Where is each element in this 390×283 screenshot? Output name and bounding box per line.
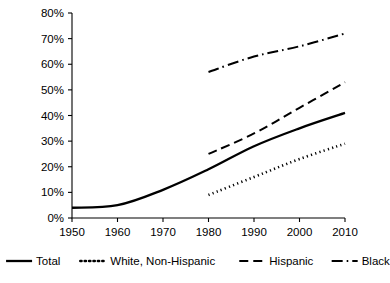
y-tick-label: 80% [41,7,64,19]
x-axis-tick-labels: 1950196019701980199020002010 [59,226,358,238]
legend-label: White, Non-Hispanic [110,255,215,267]
y-tick-label: 20% [41,161,64,173]
data-series-group [72,34,345,208]
axis-lines [68,13,345,222]
series-line-black [209,34,346,72]
chart-legend: TotalWhite, Non-HispanicHispanicBlack [6,255,390,267]
x-tick-label: 1980 [196,226,222,238]
legend-label: Hispanic [269,255,313,267]
y-tick-label: 30% [41,135,64,147]
axis-frame [72,13,345,218]
series-line-hispanic [209,82,346,154]
y-tick-label: 10% [41,186,64,198]
y-tick-label: 0% [47,212,64,224]
line-chart: 0%10%20%30%40%50%60%70%80% 1950196019701… [0,0,390,283]
x-tick-label: 1960 [105,226,131,238]
x-tick-label: 2000 [287,226,313,238]
y-tick-label: 70% [41,33,64,45]
series-line-white-non-hispanic [209,144,346,195]
chart-canvas: 0%10%20%30%40%50%60%70%80% 1950196019701… [0,0,390,283]
series-line-total [72,113,345,208]
y-tick-label: 50% [41,84,64,96]
x-tick-label: 1990 [241,226,267,238]
x-tick-label: 2010 [332,226,358,238]
y-tick-label: 60% [41,58,64,70]
y-axis-tick-labels: 0%10%20%30%40%50%60%70%80% [41,7,64,224]
legend-label: Total [36,255,60,267]
y-tick-label: 40% [41,110,64,122]
x-tick-label: 1970 [150,226,176,238]
legend-label: Black [362,255,390,267]
x-tick-label: 1950 [59,226,85,238]
